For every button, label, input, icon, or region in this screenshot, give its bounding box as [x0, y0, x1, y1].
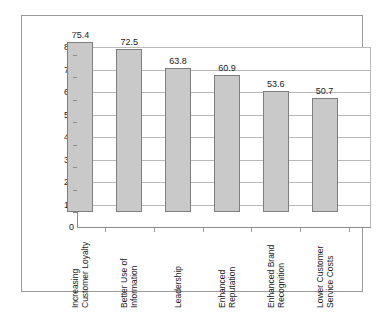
y-axis-tick-mark [73, 122, 77, 123]
category-label-line: Lower Customer [315, 218, 325, 308]
x-axis-category-label: IncreasingCustomer Loyalty [70, 218, 90, 308]
x-axis-tick-mark [349, 228, 350, 232]
category-label-line: Customer Loyalty [80, 218, 90, 308]
x-axis-tick-mark [300, 228, 301, 232]
category-label-line: Reputation [227, 218, 237, 308]
bar[interactable] [67, 42, 93, 212]
x-axis-category-label: Better Use ofInformation [119, 218, 139, 308]
x-axis-tick-mark [203, 228, 204, 232]
category-label-line: Better Use of [119, 218, 129, 308]
bar-value-label: 60.9 [218, 63, 236, 73]
x-axis-tick-mark [251, 228, 252, 232]
bar[interactable] [165, 68, 191, 212]
grid-line [77, 47, 370, 48]
y-axis-tick-mark [73, 77, 77, 78]
category-label-line: Service Costs [325, 218, 335, 308]
bar[interactable] [263, 91, 289, 212]
y-axis-tick-mark [73, 212, 77, 213]
category-label-line: Leadership [173, 218, 183, 308]
x-axis-category-label: Enhanced BrandRecognition [266, 218, 286, 308]
y-axis-tick-mark [73, 190, 77, 191]
category-label-line: Enhanced Brand [266, 218, 276, 308]
category-label-line: Enhanced [217, 218, 227, 308]
category-label-line: Increasing [70, 218, 80, 308]
category-label-line: Information [129, 218, 139, 308]
bar-value-label: 72.5 [120, 37, 138, 47]
x-axis-category-label: Lower CustomerService Costs [315, 218, 335, 308]
bar[interactable] [312, 98, 338, 212]
bar-chart-figure: 01020304050607080 75.4IncreasingCustomer… [0, 0, 384, 316]
y-axis-tick-mark [73, 55, 77, 56]
y-axis-tick-mark [73, 100, 77, 101]
x-axis-tick-mark [105, 228, 106, 232]
x-axis-category-label: Leadership [173, 218, 183, 308]
y-axis-tick-mark [73, 145, 77, 146]
y-axis-tick-mark [73, 32, 77, 33]
bar-value-label: 63.8 [169, 56, 187, 66]
bar-value-label: 53.6 [267, 79, 285, 89]
bar-value-label: 50.7 [316, 86, 334, 96]
bar[interactable] [214, 75, 240, 212]
chart-frame: 01020304050607080 75.4IncreasingCustomer… [21, 15, 363, 292]
x-axis-tick-mark [154, 228, 155, 232]
category-label-line: Recognition [276, 218, 286, 308]
plot-right-border [370, 47, 371, 228]
y-axis-tick-mark [73, 167, 77, 168]
x-axis-category-label: EnhancedReputation [217, 218, 237, 308]
bar[interactable] [116, 49, 142, 212]
